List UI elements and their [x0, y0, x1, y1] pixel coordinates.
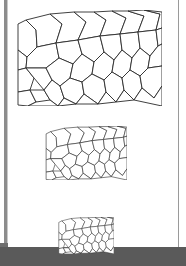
- mesh-small-svg: [58, 217, 114, 254]
- mesh-figure-medium: [45, 126, 127, 180]
- document-page: [0, 0, 186, 266]
- scan-left-soft-edge: [7, 0, 8, 247]
- mesh-medium-svg: [45, 126, 127, 180]
- mesh-figure-large: [16, 10, 162, 106]
- mesh-figure-small: [58, 217, 114, 254]
- scan-right-thin-line: [178, 0, 179, 247]
- mesh-large-svg: [16, 10, 162, 106]
